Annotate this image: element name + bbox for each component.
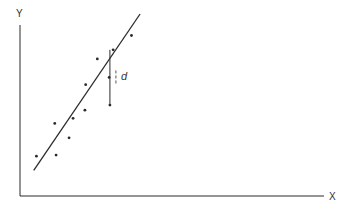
plot-canvas: Y X d — [0, 0, 353, 210]
data-point — [72, 117, 75, 120]
residual-label: d — [121, 70, 128, 82]
regression-line — [34, 14, 140, 170]
x-axis-label: X — [329, 191, 336, 202]
regression-diagram: Y X d — [0, 0, 353, 210]
data-point — [84, 83, 87, 86]
data-point — [84, 109, 87, 112]
data-point — [96, 58, 99, 61]
y-axis-label: Y — [16, 8, 23, 19]
data-point — [55, 154, 58, 157]
data-point — [35, 155, 38, 158]
data-point — [68, 136, 71, 139]
data-point — [130, 34, 133, 37]
data-point — [53, 122, 56, 125]
data-point — [112, 48, 115, 51]
